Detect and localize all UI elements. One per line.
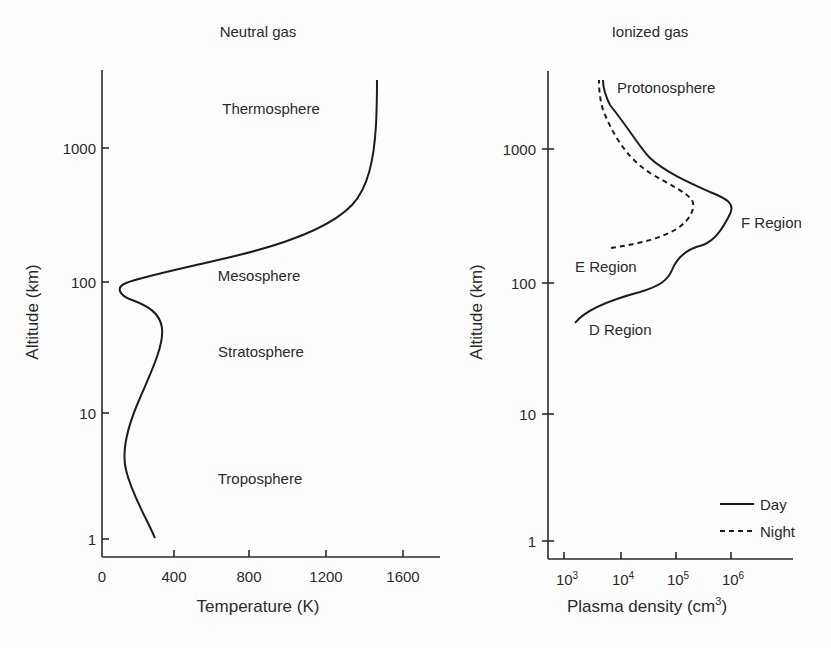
right-x-ticks: 103 104 105 106 bbox=[556, 552, 745, 588]
left-x-ticks: 0 400 800 1200 1600 bbox=[98, 550, 420, 585]
stratosphere-label: Stratosphere bbox=[218, 343, 304, 360]
legend: Day Night bbox=[720, 496, 796, 540]
protonosphere-label: Protonosphere bbox=[617, 79, 715, 96]
e-region-label: E Region bbox=[575, 258, 637, 275]
x-tick-label: 106 bbox=[722, 570, 745, 588]
left-x-axis-label: Temperature (K) bbox=[197, 597, 320, 616]
figure: Neutral gas 1000 100 10 1 0 400 800 1200… bbox=[0, 0, 831, 648]
y-tick-label: 1000 bbox=[503, 141, 536, 158]
thermosphere-label: Thermosphere bbox=[222, 100, 320, 117]
f-region-label: F Region bbox=[741, 214, 802, 231]
legend-day-label: Day bbox=[760, 496, 787, 513]
right-x-axis-label: Plasma density (cm3) bbox=[567, 595, 727, 616]
night-density-curve bbox=[599, 80, 693, 248]
left-panel: Neutral gas 1000 100 10 1 0 400 800 1200… bbox=[23, 23, 440, 616]
legend-night-label: Night bbox=[760, 523, 796, 540]
x-tick-label: 1600 bbox=[386, 568, 419, 585]
y-tick-label: 10 bbox=[519, 406, 536, 423]
x-tick-label: 800 bbox=[236, 568, 261, 585]
left-panel-title: Neutral gas bbox=[220, 23, 297, 40]
y-tick-label: 100 bbox=[511, 275, 536, 292]
right-panel-title: Ionized gas bbox=[612, 23, 689, 40]
troposphere-label: Troposphere bbox=[218, 470, 303, 487]
right-y-axis-label: Altitude (km) bbox=[467, 264, 486, 359]
right-y-ticks: 1000 100 10 1 bbox=[503, 141, 554, 550]
y-tick-label: 1 bbox=[88, 531, 96, 548]
x-tick-label: 1200 bbox=[309, 568, 342, 585]
left-y-axis-label: Altitude (km) bbox=[23, 264, 42, 359]
mesosphere-label: Mesosphere bbox=[218, 267, 301, 284]
x-tick-label: 103 bbox=[556, 570, 579, 588]
x-tick-label: 104 bbox=[612, 570, 635, 588]
x-tick-label: 400 bbox=[161, 568, 186, 585]
day-density-curve bbox=[575, 80, 732, 323]
d-region-label: D Region bbox=[589, 321, 652, 338]
y-tick-label: 10 bbox=[79, 405, 96, 422]
x-tick-label: 105 bbox=[667, 570, 690, 588]
right-panel: Ionized gas 1000 100 10 1 103 104 105 10… bbox=[420, 23, 802, 616]
y-tick-label: 1000 bbox=[63, 140, 96, 157]
y-tick-label: 100 bbox=[71, 274, 96, 291]
x-tick-label: 0 bbox=[98, 568, 106, 585]
y-tick-label: 1 bbox=[528, 533, 536, 550]
